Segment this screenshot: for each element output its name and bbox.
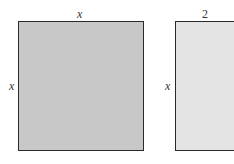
- x-squared-tile: [18, 21, 144, 151]
- x-squared-side-label: x: [9, 80, 14, 92]
- x-squared-top-label: x: [77, 8, 82, 20]
- two-x-tile: [175, 21, 234, 151]
- two-x-side-label: x: [165, 80, 170, 92]
- two-x-top-label: 2: [202, 8, 208, 20]
